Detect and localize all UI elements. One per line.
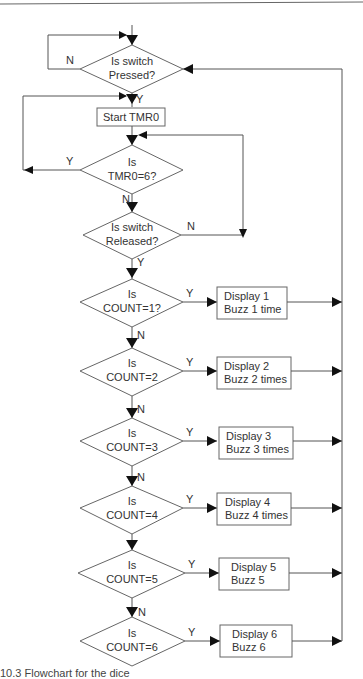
- process-label: Buzz 5: [231, 574, 265, 586]
- decision-label: Is: [128, 495, 137, 507]
- decision-tmr0: Is TMR0=6?: [80, 145, 183, 194]
- decision-label: Is: [128, 627, 137, 639]
- decision-label: Released?: [106, 235, 159, 247]
- arrow-down-icon: [126, 135, 138, 145]
- process-label: Display 2: [224, 360, 269, 372]
- decision-label: COUNT=3: [106, 441, 158, 453]
- edge-label-no: N: [122, 193, 130, 205]
- arrow-right-icon: [332, 636, 342, 646]
- edge-label-no: N: [66, 54, 74, 66]
- decision-label: COUNT=4: [106, 509, 158, 521]
- process-display-1: Display 1 Buzz 1 time: [217, 287, 287, 319]
- arrow-right-icon: [332, 568, 342, 578]
- decision-count-2: Is COUNT=2: [80, 348, 183, 396]
- edge-label-no: N: [137, 329, 145, 341]
- process-display-3: Display 3 Buzz 3 times: [219, 427, 293, 459]
- arrow-right-icon: [207, 436, 217, 446]
- edge-label-yes: Y: [66, 155, 74, 167]
- arrow-left-icon: [183, 64, 193, 74]
- arrow-right-icon: [332, 366, 342, 376]
- edge-label-yes: Y: [186, 493, 194, 505]
- process-display-2: Display 2 Buzz 2 times: [217, 357, 291, 389]
- decision-label: COUNT=1?: [103, 302, 161, 314]
- arrow-down-icon: [126, 607, 138, 617]
- process-label: Display 6: [232, 628, 277, 640]
- decision-label: TMR0=6?: [108, 170, 157, 182]
- arrow-right-icon: [207, 503, 217, 513]
- process-label: Buzz 1 time: [224, 303, 281, 315]
- decision-label: Is: [128, 357, 137, 369]
- decision-label: Is switch: [111, 221, 153, 233]
- decision-label: Is: [128, 156, 137, 168]
- decision-switch-released: Is switch Released?: [83, 212, 181, 259]
- decision-label: Is switch: [111, 55, 153, 67]
- arrow-right-icon: [207, 366, 217, 376]
- process-display-5: Display 5 Buzz 5: [219, 558, 289, 590]
- decision-count-4: Is COUNT=4: [80, 486, 183, 534]
- arrow-right-icon: [207, 297, 217, 307]
- decision-count-6: Is COUNT=6: [80, 617, 185, 666]
- decision-switch-pressed: Is switch Pressed?: [80, 45, 183, 93]
- edge-label-yes: Y: [136, 93, 144, 105]
- arrow-down-icon: [126, 35, 138, 45]
- process-label: Display 1: [224, 290, 269, 302]
- edge-label-yes: Y: [137, 256, 145, 268]
- edge-label-no: N: [187, 220, 195, 232]
- edge-label-no: N: [137, 471, 145, 483]
- arrow-right-icon: [209, 568, 219, 578]
- process-label: Buzz 6: [232, 641, 266, 653]
- process-label: Display 3: [226, 430, 271, 442]
- decision-label: Is: [128, 559, 137, 571]
- arrow-left-icon: [24, 166, 33, 174]
- decision-label: Is: [128, 427, 137, 439]
- edge-label-yes: Y: [188, 626, 196, 638]
- process-label: Buzz 2 times: [224, 373, 287, 385]
- arrow-right-icon: [119, 92, 127, 100]
- edge-label-no: N: [138, 606, 146, 618]
- decision-count-1: Is COUNT=1?: [80, 279, 183, 327]
- edge-label-yes: Y: [188, 558, 196, 570]
- decision-label: COUNT=5: [106, 573, 158, 585]
- process-display-6: Display 6 Buzz 6: [220, 625, 292, 657]
- decision-count-5: Is COUNT=5: [78, 550, 185, 598]
- arrow-left-icon: [138, 131, 147, 139]
- edge-label-yes: Y: [186, 287, 194, 299]
- process-display-4: Display 4 Buzz 4 times: [217, 493, 291, 525]
- process-label: Display 4: [225, 496, 270, 508]
- edge-label-no: N: [137, 403, 145, 415]
- decision-label: COUNT=6: [106, 641, 158, 653]
- process-label: Display 5: [231, 561, 276, 573]
- arrow-right-icon: [119, 31, 127, 39]
- decision-count-3: Is COUNT=3: [80, 418, 183, 466]
- arrow-right-icon: [332, 503, 342, 513]
- edge-label-yes: Y: [186, 426, 194, 438]
- arrow-down-icon: [239, 229, 247, 238]
- decision-label: COUNT=2: [106, 371, 158, 383]
- process-label: Start TMR0: [103, 111, 159, 123]
- arrow-down-icon: [126, 268, 138, 278]
- arrow-right-icon: [332, 436, 342, 446]
- process-start-tmr0: Start TMR0: [97, 108, 165, 126]
- top-rule: [0, 2, 363, 4]
- process-label: Buzz 4 times: [225, 509, 288, 521]
- flowchart-canvas: Is switch Pressed? N Y Y Start TMR0 Is T…: [0, 0, 363, 679]
- arrow-down-icon: [126, 540, 138, 550]
- arrow-right-icon: [210, 636, 220, 646]
- process-label: Buzz 3 times: [226, 443, 289, 455]
- decision-label: Is: [128, 288, 137, 300]
- figure-caption: 10.3 Flowchart for the dice: [0, 667, 130, 679]
- arrow-right-icon: [332, 297, 342, 307]
- decision-label: Pressed?: [109, 69, 155, 81]
- edge-label-yes: Y: [186, 356, 194, 368]
